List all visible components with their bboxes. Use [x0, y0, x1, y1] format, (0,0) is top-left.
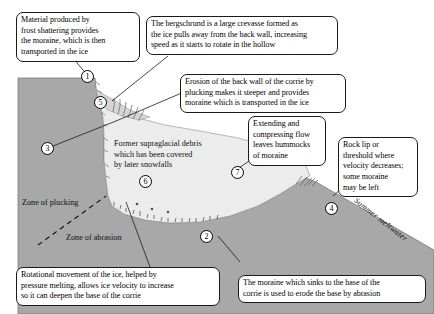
marker-2[interactable]: 2 [200, 230, 213, 243]
callout-frost-shattering[interactable]: Material produced by frost shattering pr… [16, 12, 140, 62]
marker-6[interactable]: 6 [139, 175, 152, 188]
label-former-supraglacial-debris: Former supraglacial debris which has bee… [114, 139, 202, 171]
marker-1[interactable]: 1 [81, 70, 94, 83]
diagram-canvas: Material produced by frost shattering pr… [0, 0, 434, 314]
marker-7[interactable]: 7 [231, 166, 244, 179]
marker-5[interactable]: 5 [94, 96, 107, 109]
marker-4[interactable]: 4 [325, 202, 338, 215]
marker-3[interactable]: 3 [41, 142, 54, 155]
callout-backwall-plucking[interactable]: Erosion of the back wall of the corrie b… [180, 74, 346, 113]
callout-extending-compressing-flow[interactable]: Extending and compressing flow leaves hu… [248, 116, 326, 166]
label-zone-of-plucking: Zone of plucking [22, 198, 78, 209]
callout-rotational-movement[interactable]: Rotational movement of the ice, helped b… [16, 267, 220, 306]
callout-rock-lip-threshold[interactable]: Rock lip or threshold where velocity dec… [338, 137, 418, 197]
callout-moraine-base-abrasion[interactable]: The moraine which sinks to the base of t… [238, 275, 426, 303]
label-zone-of-abrasion: Zone of abrasion [66, 233, 121, 244]
callout-bergschrund[interactable]: The bergschrund is a large crevasse form… [146, 16, 338, 55]
